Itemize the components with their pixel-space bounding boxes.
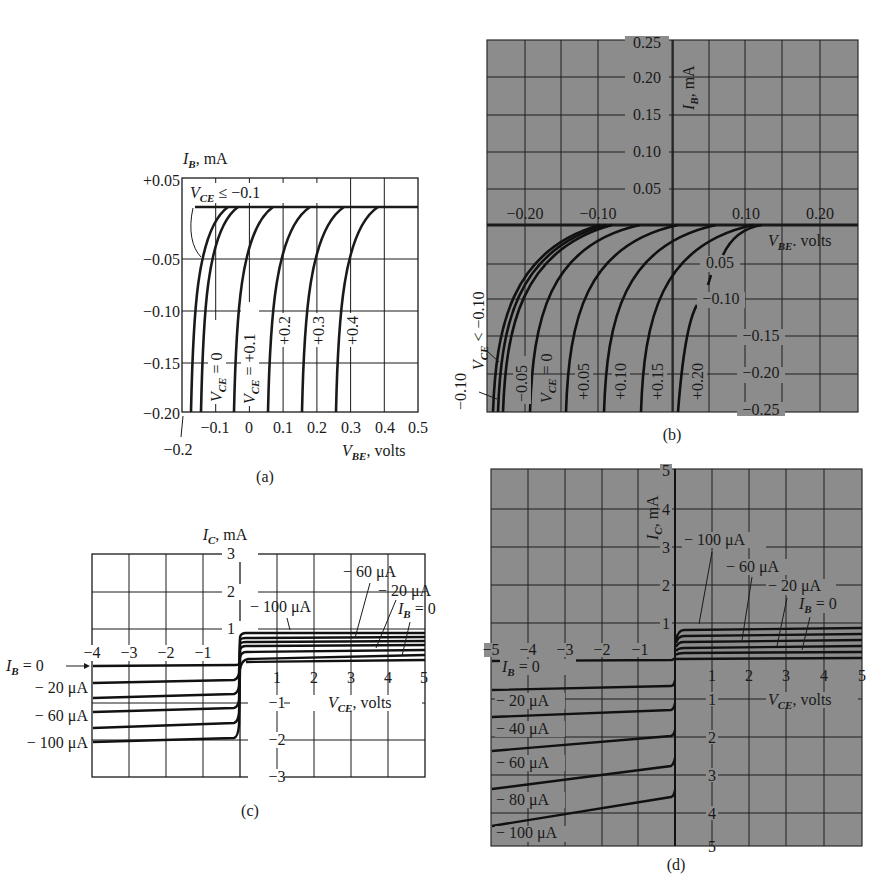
panel-c-label: − 100 μA <box>27 734 89 752</box>
svg-text:−0.25: −0.25 <box>742 401 779 418</box>
svg-text:5: 5 <box>708 838 716 855</box>
panel-c-xtick: 4 <box>384 669 392 686</box>
svg-text:−0.10: −0.10 <box>452 373 469 410</box>
svg-text:1: 1 <box>662 615 670 632</box>
svg-text:− 40 μA: − 40 μA <box>496 720 550 738</box>
svg-text:+0.3: +0.3 <box>310 316 327 345</box>
panel-c-caption: (c) <box>241 802 259 820</box>
svg-text:+0.15: +0.15 <box>649 363 666 400</box>
panel-c-xtick: −1 <box>194 644 211 661</box>
svg-text:−4: −4 <box>519 641 536 658</box>
svg-text:0.10: 0.10 <box>732 205 760 222</box>
panel-c-xtick: 5 <box>420 669 428 686</box>
panel-c-ytick: −3 <box>268 768 285 785</box>
panel-b-ann-010: +0.10 <box>612 354 630 402</box>
svg-text:3: 3 <box>708 767 716 784</box>
svg-text:−0.20: −0.20 <box>506 205 543 222</box>
panel-c: IC, mA 3 2 1 −1 −2 −3 −4 −3 −2 −1 1 2 3 … <box>5 526 436 820</box>
panel-c-ytick: −1 <box>268 694 285 711</box>
panel-a-xtick: 0 <box>245 419 253 436</box>
panel-a-ytick: −0.20 <box>143 405 180 422</box>
svg-text:0.05: 0.05 <box>706 254 734 271</box>
svg-text:− 20 μA: − 20 μA <box>768 577 822 595</box>
panel-c-xtick: −2 <box>157 644 174 661</box>
panel-a-ytick: −0.05 <box>143 251 180 268</box>
svg-text:− 80 μA: − 80 μA <box>496 791 550 809</box>
svg-text:− 20 μA: − 20 μA <box>496 692 550 710</box>
panel-b-ann-m010: −0.10 <box>452 373 469 410</box>
panel-c-xtick: −3 <box>120 644 137 661</box>
panel-a-ann-vce0: VCE = 0 <box>208 320 228 404</box>
panel-d-caption: (d) <box>667 856 686 874</box>
panel-a-xtick: 0.1 <box>273 419 293 436</box>
svg-text:4: 4 <box>820 667 828 684</box>
figure: IB, mA +0.05 −0.05 −0.10 −0.15 −0.20 −0.… <box>0 0 892 895</box>
svg-text:5: 5 <box>858 667 866 684</box>
panel-c-label: − 60 μA <box>343 563 397 581</box>
svg-text:+0.20: +0.20 <box>689 363 706 400</box>
panel-a: IB, mA +0.05 −0.05 −0.10 −0.15 −0.20 −0.… <box>143 150 428 486</box>
panel-b-ann-015: +0.15 <box>649 354 667 402</box>
svg-text:− 100 μA: − 100 μA <box>684 531 746 549</box>
svg-text:1: 1 <box>708 691 716 708</box>
panel-a-xlabel: VBE, volts <box>342 442 406 462</box>
panel-c-xtick: 3 <box>347 669 355 686</box>
svg-text:0.15: 0.15 <box>633 106 661 123</box>
svg-text:+0.2: +0.2 <box>276 316 293 345</box>
svg-text:−1: −1 <box>631 641 648 658</box>
panel-a-arrow <box>181 416 183 437</box>
svg-text:3: 3 <box>782 667 790 684</box>
svg-text:0.10: 0.10 <box>633 143 661 160</box>
svg-text:5: 5 <box>662 462 670 479</box>
svg-text:−0.10: −0.10 <box>702 290 739 307</box>
svg-text:4: 4 <box>708 805 716 822</box>
svg-text:3: 3 <box>662 539 670 556</box>
panel-c-xtick: −4 <box>83 644 100 661</box>
panel-b-ann-005: +0.05 <box>575 354 593 402</box>
svg-text:−5: −5 <box>482 641 499 658</box>
svg-text:+0.05: +0.05 <box>575 363 592 400</box>
panel-c-label-ib0: IB = 0 <box>5 657 44 677</box>
panel-c-label: − 20 μA <box>35 679 89 697</box>
panel-c-ytick: 2 <box>227 583 235 600</box>
panel-a-ytick-top: +0.05 <box>143 172 180 189</box>
svg-text:2: 2 <box>708 729 716 746</box>
panel-a-xtick: −0.1 <box>200 419 229 436</box>
svg-text:−3: −3 <box>556 641 573 658</box>
panel-c-ytick: 3 <box>227 545 235 562</box>
panel-a-caption: (a) <box>256 468 274 486</box>
svg-text:+0.4: +0.4 <box>344 316 361 345</box>
panel-c-ylabel: IC, mA <box>202 526 248 546</box>
panel-a-ann-04: +0.4 <box>344 313 362 347</box>
svg-text:−0.15: −0.15 <box>742 327 779 344</box>
panel-a-xtick: 0.4 <box>375 419 395 436</box>
panel-c-xtick: 2 <box>310 669 318 686</box>
panel-c-ytick: −2 <box>268 731 285 748</box>
svg-text:−0.05: −0.05 <box>513 365 530 402</box>
panel-a-xtick-first: −0.2 <box>163 441 192 458</box>
svg-text:0.20: 0.20 <box>633 69 661 86</box>
panel-c-xtick: 1 <box>273 669 281 686</box>
panel-c-label: − 60 μA <box>35 707 89 725</box>
panel-a-xtick: 0.2 <box>307 419 327 436</box>
svg-text:0.05: 0.05 <box>633 180 661 197</box>
panel-a-ann-02: +0.2 <box>276 313 294 347</box>
panel-a-ann-vce01: VCE = +0.1 <box>241 302 261 406</box>
panel-a-ann-03: +0.3 <box>310 313 328 347</box>
svg-text:− 60 μA: − 60 μA <box>496 754 550 772</box>
panel-a-ytick: −0.10 <box>143 303 180 320</box>
panel-c-ytick: 1 <box>227 620 235 637</box>
svg-text:+0.10: +0.10 <box>612 363 629 400</box>
svg-text:0.20: 0.20 <box>806 205 834 222</box>
panel-c-label: − 20 μA <box>378 582 432 600</box>
panel-a-xtick: 0.3 <box>341 419 361 436</box>
panel-c-label: − 100 μA <box>250 598 312 616</box>
svg-text:−2: −2 <box>593 641 610 658</box>
svg-text:2: 2 <box>662 577 670 594</box>
svg-text:0.25: 0.25 <box>633 34 661 51</box>
panel-b: 0.25 0.20 0.15 0.10 0.05 0.05 −0.10 −0.1… <box>452 34 858 444</box>
svg-text:−0.20: −0.20 <box>742 364 779 381</box>
panel-a-xtick: 0.5 <box>408 419 428 436</box>
panel-b-caption: (b) <box>663 426 682 444</box>
svg-text:4: 4 <box>662 501 670 518</box>
